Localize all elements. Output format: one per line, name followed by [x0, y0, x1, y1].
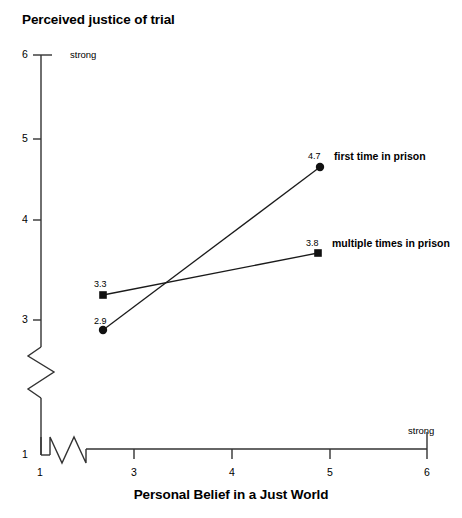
series-multiple-times-in-prison	[99, 249, 322, 299]
data-point-first-low	[99, 326, 107, 334]
y-axis-break-zigzag	[28, 347, 54, 398]
series-first-time-in-prison	[99, 163, 324, 334]
chart-plot-area	[0, 0, 462, 518]
series-line-first-time-in-prison	[103, 167, 320, 330]
chart-figure: Perceived justice of trial 6 5 4 3 1 str…	[0, 0, 462, 518]
data-point-first-high	[316, 163, 324, 171]
y-axis	[28, 55, 54, 455]
x-axis	[41, 432, 427, 463]
series-line-multiple-times-in-prison	[103, 253, 318, 295]
x-axis-break-zigzag	[50, 437, 86, 463]
data-point-multiple-low	[99, 291, 107, 299]
data-point-multiple-high	[314, 249, 322, 257]
x-axis-title: Personal Belief in a Just World	[0, 487, 462, 502]
